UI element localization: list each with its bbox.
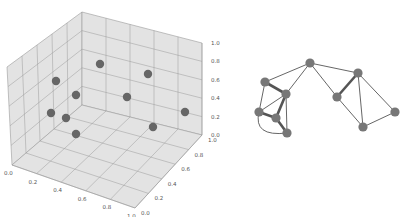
x-tick-label: 0.2 [29, 179, 38, 185]
data-point [47, 109, 55, 117]
scatter-3d-plot: 0.00.20.40.60.81.00.00.20.40.60.81.00.00… [4, 12, 220, 217]
data-point [144, 70, 152, 78]
network-edge [265, 63, 310, 82]
x-tick-label: 0.4 [53, 187, 62, 193]
x-tick-label: 0.0 [4, 170, 13, 176]
y-tick-label: 0.4 [168, 181, 177, 187]
network-node [281, 89, 290, 98]
network-node [260, 77, 269, 86]
network-edge [358, 73, 395, 112]
x-tick-label: 0.8 [102, 204, 111, 210]
data-point [123, 93, 131, 101]
y-tick-label: 0.8 [195, 152, 204, 158]
data-point [96, 60, 104, 68]
z-tick-label: 0.0 [211, 132, 220, 138]
x-tick-label: 0.6 [78, 196, 87, 202]
network-edge [358, 73, 363, 127]
z-tick-label: 0.6 [211, 77, 220, 83]
network-edge [363, 112, 395, 127]
data-point [62, 114, 70, 122]
network-node [358, 122, 367, 131]
data-point [52, 77, 60, 85]
data-point [149, 123, 157, 131]
y-tick-label: 0.0 [141, 210, 150, 216]
data-point [72, 130, 80, 138]
z-tick-label: 0.4 [211, 95, 220, 101]
x-tick-label: 1.0 [127, 213, 136, 217]
z-tick-label: 0.2 [211, 114, 220, 120]
network-edge [337, 97, 363, 127]
figure-canvas: 0.00.20.40.60.81.00.00.20.40.60.81.00.00… [0, 0, 408, 217]
z-tick-label: 1.0 [211, 40, 220, 46]
network-graph [254, 58, 399, 137]
data-point [181, 108, 189, 116]
network-edge [286, 94, 287, 133]
network-node [353, 68, 362, 77]
network-node [305, 58, 314, 67]
data-point [72, 91, 80, 99]
network-nodes [254, 58, 399, 137]
z-tick-label: 0.8 [211, 58, 220, 64]
network-node [282, 128, 291, 137]
network-node [271, 113, 280, 122]
network-node [390, 107, 399, 116]
network-edges [258, 63, 395, 134]
network-node [254, 107, 263, 116]
network-node [332, 92, 341, 101]
y-tick-label: 0.2 [154, 195, 163, 201]
network-edge [337, 73, 358, 97]
y-tick-label: 0.6 [181, 166, 190, 172]
